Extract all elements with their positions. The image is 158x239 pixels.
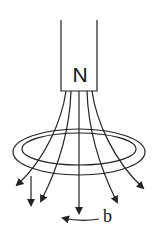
direction-indicator: b — [63, 206, 112, 226]
field-lines — [17, 91, 143, 213]
bar-magnet: N — [61, 20, 97, 91]
direction-label: b — [103, 206, 112, 226]
north-pole-label: N — [72, 63, 87, 86]
magnet-ring-diagram: N b — [0, 0, 158, 239]
